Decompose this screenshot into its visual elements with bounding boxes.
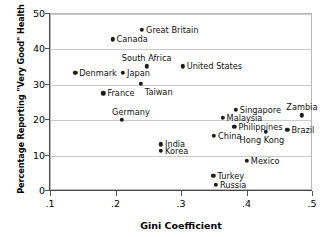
y-tick-label-50: 50 (23, 8, 45, 19)
data-point-label: Taiwan (145, 87, 173, 97)
scatter-chart: Percentage Reporting "Very Good" Health … (0, 0, 327, 237)
x-tick-label-3: .4 (237, 198, 257, 209)
x-tick-mark-1 (116, 191, 117, 196)
data-point-label: Canada (117, 34, 148, 44)
x-axis-title: Gini Coefficient (50, 220, 312, 231)
data-point-label: South Africa (122, 53, 172, 63)
y-axis-line (49, 13, 50, 191)
data-point (245, 158, 249, 162)
gridline-y-50 (51, 14, 311, 15)
x-tick-mark-2 (181, 191, 182, 196)
data-point-label: Philippines (238, 122, 282, 132)
data-point-label: France (107, 88, 134, 98)
y-axis-title: Percentage Reporting "Very Good" Health (16, 0, 26, 199)
data-point (159, 142, 163, 146)
data-point (264, 129, 268, 133)
data-point-label: Japan (127, 68, 150, 78)
x-tick-label-1: .2 (106, 198, 126, 209)
data-point (159, 148, 163, 152)
gridline-y-40 (51, 49, 311, 50)
x-tick-mark-0 (50, 191, 51, 196)
data-point (285, 128, 289, 132)
data-point-label: Denmark (79, 68, 117, 78)
y-tick-label-40: 40 (23, 43, 45, 54)
data-point (214, 183, 218, 187)
data-point (120, 118, 124, 122)
data-point (212, 134, 216, 138)
y-tick-label-10: 10 (23, 149, 45, 160)
data-point (300, 113, 304, 117)
data-point-label: China (218, 131, 241, 141)
y-tick-label-0: 0 (23, 185, 45, 196)
data-point-label: United States (187, 61, 242, 71)
data-point (121, 71, 125, 75)
data-point (232, 124, 236, 128)
data-point (73, 71, 77, 75)
x-tick-label-4: .5 (302, 198, 322, 209)
data-point (211, 174, 215, 178)
x-tick-label-2: .3 (171, 198, 191, 209)
data-point-label: Great Britain (146, 25, 198, 35)
y-tick-label-20: 20 (23, 114, 45, 125)
data-point-label: Germany (112, 107, 150, 117)
data-point-label: Hong Kong (240, 135, 285, 145)
y-tick-label-30: 30 (23, 78, 45, 89)
data-point-label: Korea (165, 146, 188, 156)
data-point (110, 37, 114, 41)
data-point-label: Brazil (291, 125, 314, 135)
plot-area: Great BritainCanadaSouth AfricaUnited St… (50, 13, 312, 190)
gridline-y-30 (51, 85, 311, 86)
data-point-label: Mexico (251, 156, 280, 166)
data-point (101, 91, 105, 95)
data-point (234, 108, 238, 112)
data-point (140, 28, 144, 32)
data-point (180, 64, 184, 68)
x-tick-label-0: .1 (40, 198, 60, 209)
x-tick-mark-3 (247, 191, 248, 196)
x-tick-mark-4 (312, 191, 313, 196)
data-point-label: Russia (220, 180, 246, 190)
data-point-label: Zambia (286, 102, 317, 112)
